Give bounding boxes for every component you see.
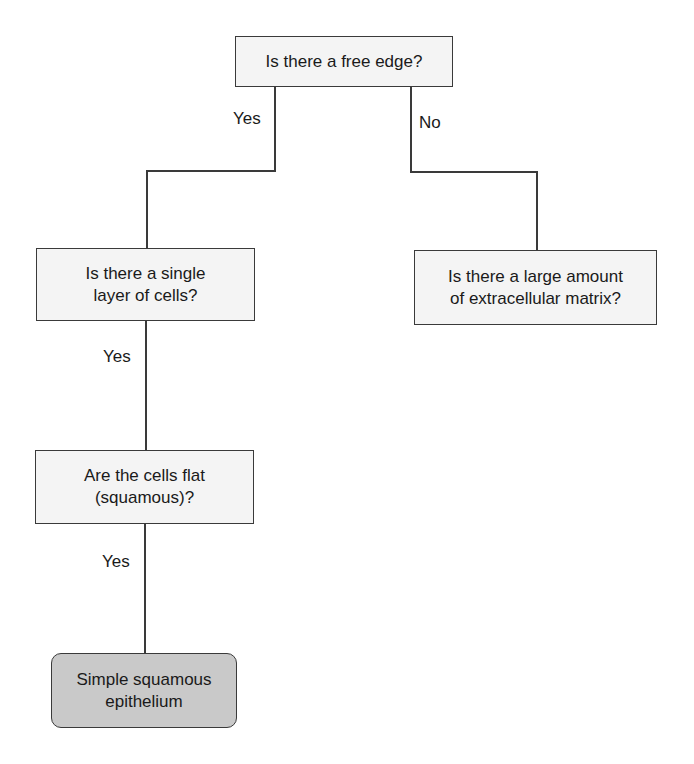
node-flat-cells: Are the cells flat (squamous)? xyxy=(35,450,254,524)
connector-no-horizontal xyxy=(410,171,538,173)
node-flat-cells-text: Are the cells flat (squamous)? xyxy=(84,465,205,509)
connector-yes-down-1 xyxy=(274,86,276,171)
connector-flat-cells-yes xyxy=(144,523,146,654)
node-single-layer-text: Is there a single layer of cells? xyxy=(85,263,205,307)
edge-label-flat-cells-yes: Yes xyxy=(102,552,130,572)
edge-label-single-layer-yes: Yes xyxy=(103,347,131,367)
node-result-text: Simple squamous epithelium xyxy=(76,669,211,713)
node-extracellular-matrix-text: Is there a large amount of extracellular… xyxy=(448,266,623,310)
connector-yes-down-2 xyxy=(146,170,148,249)
connector-single-layer-yes xyxy=(145,320,147,451)
connector-yes-horizontal xyxy=(146,170,276,172)
node-result-simple-squamous-epithelium: Simple squamous epithelium xyxy=(51,653,237,728)
node-free-edge: Is there a free edge? xyxy=(235,36,453,87)
node-extracellular-matrix: Is there a large amount of extracellular… xyxy=(414,250,657,325)
connector-no-down-1 xyxy=(410,86,412,172)
node-single-layer: Is there a single layer of cells? xyxy=(36,248,255,321)
edge-label-free-edge-no: No xyxy=(419,113,441,133)
edge-label-free-edge-yes: Yes xyxy=(233,109,261,129)
connector-no-down-2 xyxy=(536,171,538,251)
node-free-edge-text: Is there a free edge? xyxy=(266,51,423,73)
